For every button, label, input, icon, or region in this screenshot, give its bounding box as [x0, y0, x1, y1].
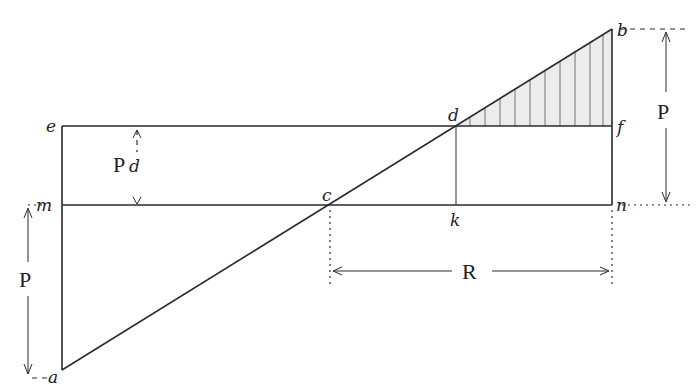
line-ab	[62, 29, 612, 370]
pd-label: P	[113, 152, 125, 177]
point-label-e: e	[46, 116, 56, 136]
dimension-pd: P d	[113, 130, 141, 204]
point-label-m: m	[36, 195, 52, 215]
point-label-a: a	[48, 367, 58, 387]
pd-subscript: d	[129, 156, 140, 176]
point-label-d: d	[448, 105, 459, 125]
dimension-p-left: P	[19, 208, 32, 374]
dimension-p-right: P	[657, 32, 670, 202]
geometric-diagram: P d P P R e m a c d k b f n	[0, 0, 700, 390]
point-label-f: f	[615, 117, 626, 137]
point-label-b: b	[617, 20, 628, 40]
p-right-label: P	[657, 99, 669, 124]
point-label-n: n	[616, 195, 627, 215]
point-label-c: c	[322, 185, 332, 205]
p-left-label: P	[19, 267, 31, 292]
dimension-r: R	[333, 259, 609, 284]
point-label-k: k	[450, 210, 460, 230]
r-label: R	[462, 259, 477, 284]
